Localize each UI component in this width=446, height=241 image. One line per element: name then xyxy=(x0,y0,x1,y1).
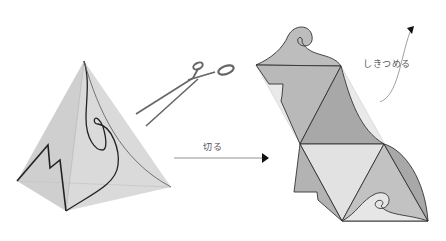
tetra-face-right xyxy=(66,61,171,211)
diagram-stage: 切る しきつめる xyxy=(0,0,446,241)
cut-label: 切る xyxy=(203,140,222,153)
tetrahedron xyxy=(17,61,171,211)
cut-arrow xyxy=(174,153,269,163)
tile-label: しきつめる xyxy=(363,57,411,70)
diagram-canvas xyxy=(0,0,446,241)
scissors-icon xyxy=(136,61,235,126)
top-spiral-piece xyxy=(256,27,341,66)
